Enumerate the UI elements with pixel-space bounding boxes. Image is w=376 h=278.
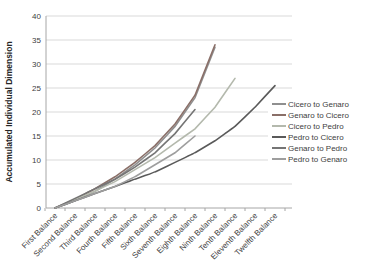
y-tick-label: 25	[32, 84, 41, 93]
y-tick-label: 30	[32, 60, 41, 69]
legend-label-3: Pedro to Cicero	[288, 133, 344, 142]
chart-canvas: 0510152025303540Accumulated Individual D…	[0, 0, 376, 278]
legend-label-2: Cicero to Pedro	[288, 122, 344, 131]
y-tick-label: 0	[37, 204, 42, 213]
y-tick-label: 35	[32, 36, 41, 45]
legend-label-5: Pedro to Genaro	[288, 155, 348, 164]
accumulated-dimension-chart: 0510152025303540Accumulated Individual D…	[0, 0, 376, 278]
legend-label-0: Cicero to Genaro	[288, 100, 349, 109]
series-line-3	[55, 86, 275, 208]
legend: Cicero to GenaroGenaro to CiceroCicero t…	[268, 98, 376, 164]
y-axis-tick-labels: 0510152025303540	[32, 12, 41, 213]
legend-label-1: Genaro to Cicero	[288, 111, 349, 120]
y-tick-label: 10	[32, 156, 41, 165]
x-axis-tick-labels: First BalanceSecond BalanceThird Balance…	[20, 211, 280, 262]
y-tick-label: 20	[32, 108, 41, 117]
y-tick-label: 15	[32, 132, 41, 141]
y-axis-title: Accumulated Individual Dimension	[4, 41, 14, 182]
gridlines	[46, 16, 292, 184]
y-tick-label: 40	[32, 12, 41, 21]
axes	[45, 16, 292, 211]
legend-label-4: Genaro to Pedro	[288, 144, 348, 153]
y-tick-label: 5	[37, 180, 42, 189]
series-line-2	[55, 78, 235, 208]
